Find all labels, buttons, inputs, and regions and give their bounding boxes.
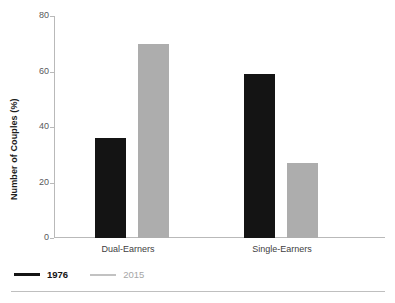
- bar-dual-earners-2015: [138, 44, 169, 238]
- legend-swatch-icon: [14, 273, 40, 276]
- plot-area: 80 60 40 20 0: [54, 16, 385, 238]
- y-axis-title-label: Number of Couples (%): [9, 60, 19, 200]
- bottom-divider: [11, 291, 385, 292]
- y-tick-label: 0: [44, 232, 49, 242]
- y-tick-mark: [50, 183, 54, 184]
- y-tick-label: 40: [39, 121, 49, 131]
- y-axis-title: Number of Couples (%): [9, 0, 23, 60]
- y-tick-mark: [50, 127, 54, 128]
- y-tick-label: 60: [39, 66, 49, 76]
- legend-item-2015[interactable]: 2015: [90, 270, 144, 280]
- legend: 1976 2015: [14, 270, 144, 280]
- bar-dual-earners-1976: [95, 138, 126, 238]
- y-tick-mark: [50, 238, 54, 239]
- legend-label: 2015: [123, 270, 144, 280]
- x-category-label-dual-earners: Dual-Earners: [78, 244, 178, 254]
- bar-single-earners-1976: [244, 74, 275, 238]
- legend-item-1976[interactable]: 1976: [14, 270, 68, 280]
- bar-single-earners-2015: [287, 163, 318, 238]
- y-axis-line: [54, 16, 55, 238]
- bar-chart-figure: Number of Couples (%) 80 60 40 20 0: [0, 0, 395, 303]
- y-tick-mark: [50, 16, 54, 17]
- legend-label: 1976: [47, 270, 68, 280]
- legend-swatch-icon: [90, 274, 116, 276]
- y-tick-mark: [50, 72, 54, 73]
- x-category-label-single-earners: Single-Earners: [227, 244, 337, 254]
- y-tick-label: 80: [39, 10, 49, 20]
- y-tick-label: 20: [39, 177, 49, 187]
